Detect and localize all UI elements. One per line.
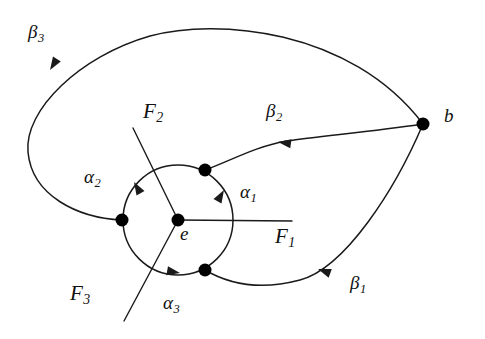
- label-F2: F2: [143, 101, 163, 125]
- label-b-base: b: [444, 105, 454, 126]
- alpha3-arrowhead: [166, 266, 180, 275]
- label-F2-sub: 2: [156, 110, 163, 125]
- label-beta1-sub: 1: [360, 282, 366, 296]
- alpha1-arrowhead: [214, 190, 224, 204]
- label-F1-sub: 1: [288, 235, 295, 250]
- label-F1: F1: [275, 226, 295, 250]
- label-F3-sub: 3: [83, 292, 90, 307]
- label-F2-base: F: [143, 99, 156, 123]
- label-beta1-base: β: [350, 272, 359, 293]
- F2-ray: [133, 128, 178, 220]
- label-alpha2-sub: 2: [94, 176, 100, 190]
- label-alpha2: α2: [84, 167, 101, 189]
- label-beta3-sub: 3: [38, 31, 44, 45]
- F1-ray: [178, 220, 292, 221]
- label-alpha1-base: α: [240, 181, 250, 202]
- beta1-arc: [205, 124, 423, 285]
- label-beta2-base: β: [266, 100, 275, 121]
- diagram-canvas: β3 β2 β1 α1 α2 α3 F1 F2 F3 e b: [0, 0, 485, 339]
- label-beta3-base: β: [28, 21, 37, 42]
- label-b: b: [444, 106, 454, 125]
- alpha2-arrowhead: [134, 182, 144, 196]
- vertex-upper-right-dot: [199, 164, 212, 177]
- label-F3: F3: [70, 283, 90, 307]
- label-beta2: β2: [266, 101, 282, 123]
- label-beta3: β3: [28, 22, 44, 44]
- label-e: e: [180, 224, 188, 243]
- label-alpha2-base: α: [84, 166, 94, 187]
- label-F1-base: F: [275, 224, 288, 248]
- label-alpha3-base: α: [163, 292, 173, 313]
- label-e-base: e: [180, 223, 188, 244]
- label-alpha3: α3: [163, 293, 180, 315]
- beta1-arrowhead: [318, 269, 332, 278]
- vertex-lower-right-dot: [199, 264, 212, 277]
- label-alpha1: α1: [240, 182, 257, 204]
- beta3-arrowhead: [50, 57, 61, 70]
- label-beta1: β1: [350, 273, 366, 295]
- label-alpha3-sub: 3: [173, 302, 179, 316]
- vertex-left-dot: [116, 214, 129, 227]
- beta2-arc: [205, 124, 423, 170]
- label-F3-base: F: [70, 281, 83, 305]
- label-beta2-sub: 2: [276, 110, 282, 124]
- fundamental-rays-group: [124, 128, 292, 321]
- basepoint-b-dot: [417, 118, 430, 131]
- label-alpha1-sub: 1: [250, 191, 256, 205]
- vertex-dots-group: [116, 118, 430, 277]
